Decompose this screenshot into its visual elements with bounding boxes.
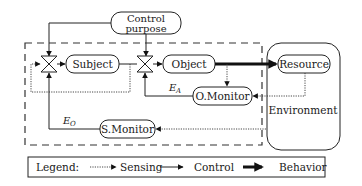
subject-node: Subject — [66, 55, 119, 73]
svg-text:Subject: Subject — [72, 58, 113, 70]
svg-text:Resource: Resource — [279, 58, 329, 70]
legend: Legend: Sensing Control Behavior — [28, 157, 328, 177]
legend-control-label: Control — [194, 161, 235, 173]
resource-node: Resource — [278, 55, 330, 73]
edge-purpose-valve1 — [49, 23, 111, 56]
eo-label: E O — [62, 115, 76, 128]
control-diagram: Environment Control purpose Subject Obje… — [0, 0, 362, 186]
svg-text:O: O — [70, 120, 76, 128]
valve-2-icon — [137, 56, 153, 72]
valve-1-icon — [41, 56, 57, 72]
o-monitor-node: O.Monitor — [193, 87, 252, 105]
control-purpose-node: Control purpose — [111, 12, 181, 34]
legend-behavior-label: Behavior — [279, 161, 328, 173]
s-monitor-node: S.Monitor — [100, 120, 155, 138]
environment-label: Environment — [269, 104, 339, 116]
svg-text:Object: Object — [172, 58, 208, 70]
object-node: Object — [163, 55, 215, 73]
legend-title: Legend: — [36, 161, 79, 173]
svg-text:S.Monitor: S.Monitor — [101, 123, 155, 135]
ea-label: E A — [168, 82, 181, 95]
legend-sensing-label: Sensing — [120, 161, 163, 173]
svg-text:purpose: purpose — [125, 23, 166, 34]
svg-text:O.Monitor: O.Monitor — [195, 90, 250, 102]
svg-text:A: A — [175, 87, 181, 95]
